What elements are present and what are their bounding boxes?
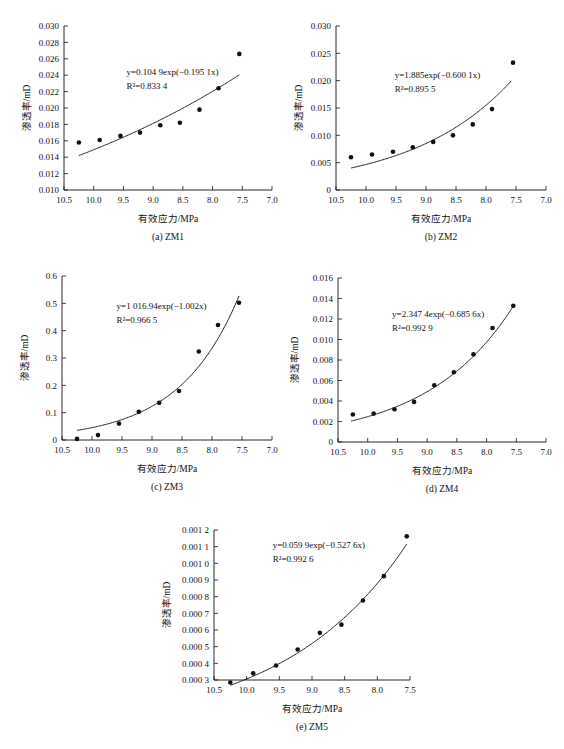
data-point [392,407,397,412]
x-axis-tick-label: 7.5 [236,445,248,455]
y-axis-tick-label: 0.000 7 [182,609,210,619]
y-axis-tick-label: 0.015 [311,103,332,113]
y-axis-tick-label: 0.000 3 [182,675,210,685]
y-axis-title: 渗透率/mD [289,336,300,383]
scatter-plot-c: 00.10.20.30.40.50.610.510.09.59.08.58.07… [18,266,280,514]
data-point [412,400,417,405]
x-axis-title: 有效应力/MPa [138,213,199,224]
x-axis-tick-label: 9.5 [116,445,128,455]
scatter-plot-e: 0.000 30.000 40.000 50.000 60.000 70.000… [152,520,418,748]
y-axis-tick-label: 0.020 [39,103,60,113]
data-point [216,86,221,91]
x-axis-tick-label: 9.0 [420,195,432,205]
data-point [295,647,300,652]
data-point [274,663,279,668]
y-axis-tick-label: 0.016 [39,136,60,146]
data-point [177,389,182,394]
scatter-plot-b: 00.0050.0100.0150.0200.0250.03010.510.09… [288,12,554,260]
x-axis-title: 有效应力/MPa [411,213,472,224]
x-axis-tick-label: 8.0 [372,685,384,695]
x-axis-tick-label: 7.5 [511,447,523,457]
y-axis-title: 渗透率/mD [161,581,172,628]
data-point [404,534,409,539]
y-axis-tick-label: 0.001 2 [182,525,209,535]
x-axis-tick-label: 7.5 [510,195,522,205]
data-point [411,145,416,150]
x-axis-tick-label: 9.0 [146,445,158,455]
x-axis-tick-label: 9.5 [118,195,130,205]
data-point [490,107,495,112]
data-point [511,60,516,65]
data-point [158,123,163,128]
x-axis-tick-label: 8.0 [481,447,493,457]
r-squared-annotation: R²=0.966 5 [117,315,158,325]
x-axis-tick-label: 9.0 [148,195,160,205]
data-point [117,421,122,426]
data-point [97,138,102,143]
fit-curve [230,544,406,685]
data-point [339,622,344,627]
y-axis-tick-label: 0.2 [46,381,57,391]
x-axis-tick-label: 10.0 [86,195,102,205]
x-axis-tick-label: 7.0 [266,445,278,455]
x-axis-tick-label: 10.0 [360,447,376,457]
data-point [75,437,80,442]
data-point [349,155,354,160]
y-axis-tick-label: 0.012 [39,169,59,179]
data-point [197,349,202,354]
y-axis-tick-label: 0.025 [311,49,332,59]
chart-panel-zm3: 00.10.20.30.40.50.610.510.09.59.08.58.07… [18,266,280,514]
chart-panel-zm2: 00.0050.0100.0150.0200.0250.03010.510.09… [288,12,554,260]
y-axis-tick-label: 0.018 [39,120,60,130]
y-axis-tick-label: 0 [53,435,58,445]
x-axis-title: 有效应力/MPa [137,463,198,474]
equation-annotation: y=1 016.94exp(−1.002x) [117,301,207,311]
equation-annotation: y=0.104 9exp(−0.195 1x) [126,67,218,77]
y-axis-tick-label: 0.006 [313,376,334,386]
y-axis-tick-label: 0.000 6 [182,625,210,635]
y-axis-tick-label: 0.030 [311,21,332,31]
y-axis-tick-label: 0 [329,437,334,447]
x-axis-tick-label: 8.5 [450,195,462,205]
x-axis-tick-label: 9.5 [392,447,404,457]
data-point [237,52,242,57]
y-axis-tick-label: 0.4 [46,326,58,336]
data-point [431,140,436,145]
data-point [382,574,387,579]
y-axis-tick-label: 0.028 [39,38,60,48]
y-axis-tick-label: 0.001 0 [182,559,210,569]
x-axis-tick-label: 10.5 [206,685,222,695]
x-axis-tick-label: 10.5 [330,447,346,457]
x-axis-title: 有效应力/MPa [282,703,343,714]
x-axis-tick-label: 9.5 [274,685,286,695]
x-axis-tick-label: 7.5 [237,195,249,205]
x-axis-tick-label: 9.5 [390,195,402,205]
panel-caption: (d) ZM4 [426,484,459,495]
data-point [471,122,476,127]
scatter-plot-a: 0.0100.0120.0140.0160.0180.0200.0220.024… [18,12,280,260]
y-axis-tick-label: 0.000 9 [182,575,210,585]
y-axis-tick-label: 0.005 [311,158,332,168]
data-point [216,323,221,328]
y-axis-tick-label: 0.014 [39,152,60,162]
y-axis-title: 渗透率/mD [21,84,32,131]
y-axis-tick-label: 0.010 [39,185,60,195]
y-axis-tick-label: 0.001 1 [182,542,209,552]
data-point [370,152,375,157]
data-point [197,107,202,112]
y-axis-tick-label: 0.004 [313,396,334,406]
y-axis-tick-label: 0.6 [46,271,58,281]
data-point [391,149,396,154]
figure-permeability-vs-effective-stress: 0.0100.0120.0140.0160.0180.0200.0220.024… [0,0,564,749]
y-axis-tick-label: 0.030 [39,21,60,31]
panel-caption: (a) ZM1 [152,232,184,243]
y-axis-tick-label: 0.020 [311,76,332,86]
data-point [361,598,366,603]
x-axis-tick-label: 8.5 [339,685,351,695]
y-axis-tick-label: 0.000 8 [182,592,210,602]
scatter-plot-d: 00.0020.0040.0060.0080.0100.0120.0140.01… [288,266,554,514]
data-point [432,383,437,388]
data-point [157,401,162,406]
x-axis-tick-label: 10.0 [239,685,255,695]
x-axis-tick-label: 8.5 [176,445,188,455]
